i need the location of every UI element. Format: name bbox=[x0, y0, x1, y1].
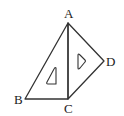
label-d: D bbox=[106, 54, 115, 69]
set-square-hole-right-icon bbox=[78, 54, 86, 69]
geometry-diagram: A B C D bbox=[0, 0, 124, 116]
set-square-hole-left-icon bbox=[47, 68, 56, 84]
label-a: A bbox=[64, 6, 74, 21]
triangle-abc bbox=[25, 23, 68, 99]
label-c: C bbox=[64, 101, 73, 116]
label-b: B bbox=[14, 92, 23, 107]
